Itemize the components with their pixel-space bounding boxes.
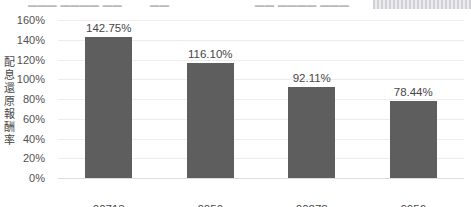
clipped-text-cell-a: ▁▁▁ ▁▁▁▁ ▁▁: [0, 0, 150, 7]
bar-value-label: 92.11%: [267, 73, 357, 85]
axis-baseline: [58, 178, 464, 179]
clipped-top-text-row: ▁▁▁ ▁▁▁▁ ▁▁ ▁▁ ▁▁ ▁▁▁▁ ▁▁▁: [0, 0, 471, 9]
clipped-text-cell-c: ▁▁ ▁▁▁▁ ▁▁▁: [255, 0, 373, 7]
y-axis-tick-label: 80%: [1, 94, 45, 105]
y-axis-tick-label: 120%: [1, 54, 45, 65]
bar-chart: ▁▁▁ ▁▁▁▁ ▁▁ ▁▁ ▁▁ ▁▁▁▁ ▁▁▁ 配息還原報酬率 160%1…: [0, 0, 471, 207]
y-axis-tick-label: 40%: [1, 133, 45, 144]
y-axis-tick-label: 60%: [1, 113, 45, 124]
clipped-text-cell-b: ▁▁: [150, 0, 255, 7]
bar-value-label: 78.44%: [368, 87, 458, 99]
x-axis-tick-label: 00713: [64, 204, 154, 207]
x-axis-tick-label: 0050: [165, 204, 255, 207]
clipped-text-cell-d: [373, 0, 471, 9]
y-axis-tick-label: 20%: [1, 153, 45, 164]
bar[interactable]: [187, 63, 234, 178]
y-axis-tick-label: 160%: [1, 15, 45, 26]
y-axis-tick-label: 0%: [1, 173, 45, 184]
x-axis-tick-label: 0056: [368, 204, 458, 207]
bar[interactable]: [85, 37, 132, 178]
gridline: [58, 20, 464, 21]
plot-area: 160%140%120%100%80%60%40%20%0%142.75%007…: [58, 20, 464, 178]
bar[interactable]: [288, 87, 335, 178]
bar[interactable]: [390, 101, 437, 178]
bar-value-label: 116.10%: [165, 49, 255, 61]
y-axis-tick-label: 100%: [1, 74, 45, 85]
x-axis-tick-label: 00878: [267, 204, 357, 207]
y-axis-tick-label: 140%: [1, 34, 45, 45]
bar-value-label: 142.75%: [64, 23, 154, 35]
